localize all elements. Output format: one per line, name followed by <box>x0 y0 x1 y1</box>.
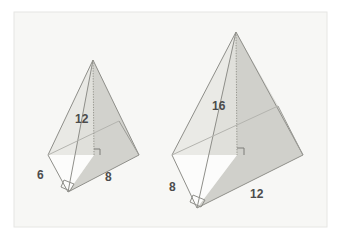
right-pyramid-right-edge-label: 12 <box>250 187 264 201</box>
left-pyramid-height-label: 12 <box>75 112 89 126</box>
right-pyramid-left-edge-label: 8 <box>169 180 176 194</box>
left-pyramid-left-edge-label: 6 <box>37 168 44 182</box>
pyramids-diagram <box>0 0 341 239</box>
geometry-figure: 12 6 8 16 8 12 <box>0 0 341 239</box>
right-pyramid-height-label: 16 <box>212 99 226 113</box>
left-pyramid-right-edge-label: 8 <box>105 170 112 184</box>
